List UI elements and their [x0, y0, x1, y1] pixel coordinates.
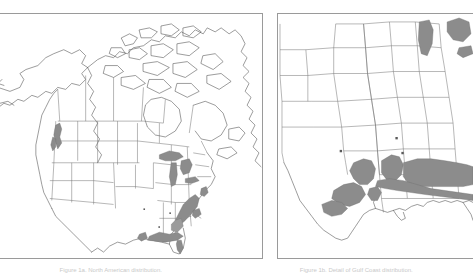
caption-row: Figure 1a. North American distribution. …: [0, 262, 467, 276]
shaded-region-east-texas: [137, 232, 147, 241]
shaded-region-lake-michigan: [418, 20, 433, 56]
shaded-region-mid-atlantic: [200, 187, 208, 197]
caption-left: Figure 1a. North American distribution.: [0, 262, 236, 276]
shaded-region-east-texas: [350, 159, 376, 185]
southeast-detail-map: [277, 13, 473, 259]
caption-right: Figure 1b. Detail of Gulf Coast distribu…: [236, 262, 468, 276]
shaded-region-pnw-coast: [51, 137, 56, 151]
shaded-region-lake-erie: [185, 177, 199, 184]
north-america-overview-map: [0, 13, 263, 259]
shaded-region-lake-michigan: [169, 163, 177, 187]
occurrence-markers-group: [340, 137, 404, 154]
occurrence-marker: [143, 208, 145, 210]
shaded-region-southern-appalachians: [171, 218, 183, 232]
shaded-region-florida: [176, 240, 183, 254]
occurrence-marker: [340, 150, 342, 152]
coastline-group: [0, 24, 261, 254]
shaded-region-mississippi: [381, 155, 403, 181]
occurrence-marker: [169, 212, 171, 214]
north-america-map-svg: [0, 14, 262, 258]
shaded-region-lake-superior: [159, 151, 183, 161]
shaded-region-lake-huron: [180, 159, 192, 175]
shaded-region-lake-huron: [447, 18, 471, 42]
occurrence-marker: [395, 137, 397, 139]
shaded-region-mississippi-delta: [368, 187, 382, 201]
shaded-region-lake-erie: [457, 46, 473, 58]
southeast-detail-map-svg: [278, 14, 473, 258]
occurrence-marker: [158, 226, 160, 228]
shaded-region-alabama: [403, 159, 473, 187]
occurrence-marker: [401, 152, 403, 154]
